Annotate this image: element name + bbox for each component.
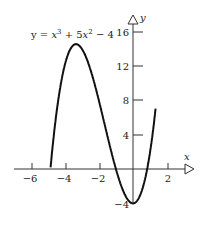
x-tick-label: −2 <box>91 173 106 184</box>
y-tick-label: 4 <box>123 130 129 141</box>
x-tick-label: −4 <box>57 173 72 184</box>
x-tick-label: 2 <box>165 173 171 184</box>
y-axis-label: y <box>139 12 146 23</box>
y-axis-arrow-icon <box>128 15 138 24</box>
y-tick-label: 16 <box>116 27 129 38</box>
x-tick-label: −6 <box>23 173 38 184</box>
y-tick-label: 8 <box>123 95 129 106</box>
x-axis-label: x <box>184 151 190 162</box>
chart-canvas: −6 −4 −2 2 16 12 8 4 −4 y x y = x3 + 5x2… <box>0 0 203 226</box>
equation-label: y = x3 + 5x2 − 4 <box>30 28 114 40</box>
y-tick-label: 12 <box>116 61 129 72</box>
y-tick-label: −4 <box>114 199 129 210</box>
x-axis-arrow-icon <box>185 164 194 174</box>
